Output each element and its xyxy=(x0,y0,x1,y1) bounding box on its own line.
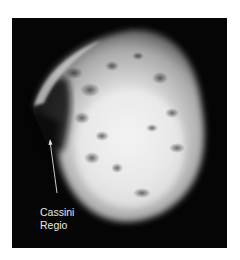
annotation-label-line1: Cassini xyxy=(40,206,74,218)
annotation-label-line2: Regio xyxy=(40,219,67,231)
photo-frame: Cassini Regio xyxy=(12,18,227,248)
